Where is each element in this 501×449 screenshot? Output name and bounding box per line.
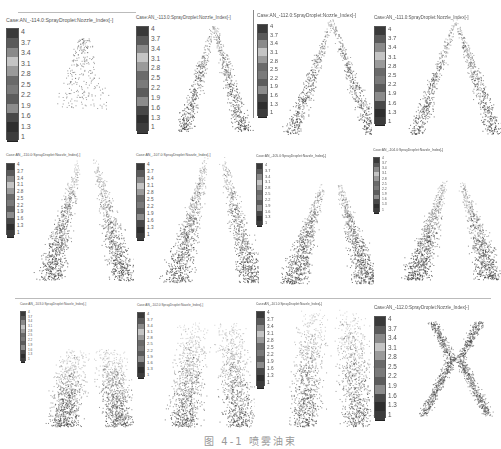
colorbar-tick-label: 3.1 bbox=[265, 180, 270, 184]
colorbar-tick-label: 3.1 bbox=[28, 325, 32, 328]
colorbar-tick-label: 1.9 bbox=[382, 193, 387, 196]
colorbar-tick-label: 2.5 bbox=[147, 198, 154, 203]
colorbar-tick-label: 2.5 bbox=[151, 75, 160, 82]
spray-droplet-scatter bbox=[40, 303, 134, 433]
colorbar-tick-label: 1.6 bbox=[28, 349, 32, 352]
colorbar-tick-label: 1.6 bbox=[267, 367, 274, 372]
colorbar-tick-label: 1.9 bbox=[267, 360, 274, 365]
colorbar-tick-label: 4 bbox=[388, 26, 391, 32]
spray-droplet-scatter bbox=[277, 152, 374, 292]
colorbar bbox=[137, 312, 145, 377]
colorbar-tick-label: 3.7 bbox=[388, 326, 397, 332]
colorbar-tick-label: 2.2 bbox=[17, 204, 23, 209]
colorbar-tick-label: 1 bbox=[151, 124, 155, 131]
colorbar-tick-label: 4 bbox=[17, 163, 20, 168]
colorbar-tick-label: 1.3 bbox=[270, 102, 278, 108]
colorbar-tick-label: 2.2 bbox=[147, 205, 154, 210]
colorbar-tick-label: 3.4 bbox=[267, 325, 274, 330]
colorbar bbox=[136, 26, 149, 131]
colorbar-tick-label: 1.9 bbox=[265, 204, 270, 208]
colorbar-tick-label: 4 bbox=[151, 26, 155, 33]
colorbar-tick-label: 1.3 bbox=[28, 353, 32, 356]
colorbar-tick-label: 2.5 bbox=[382, 183, 387, 186]
colorbar-tick-label: 3.1 bbox=[147, 330, 153, 334]
spray-droplet-scatter bbox=[279, 303, 374, 433]
colorbar-tick-label: 4 bbox=[147, 312, 149, 316]
colorbar bbox=[256, 163, 263, 225]
colorbar-tick-label: 2.5 bbox=[17, 197, 23, 202]
spray-droplet-scatter bbox=[33, 10, 124, 150]
colorbar-tick-label: 3.7 bbox=[388, 35, 397, 41]
colorbar-tick-label: 1 bbox=[265, 221, 267, 225]
spray-panel: Case:AN_-101.0:SprayDroplet:Nozzle_Index… bbox=[252, 303, 374, 433]
colorbar-tick-label: 1.9 bbox=[151, 95, 160, 102]
colorbar-tick-label: 3.7 bbox=[151, 36, 160, 43]
colorbar-tick-label: 2.5 bbox=[388, 72, 397, 78]
colorbar-tick-label: 1.3 bbox=[21, 123, 31, 130]
colorbar-tick-label: 3.4 bbox=[151, 46, 160, 53]
colorbar-tick-label: 3.1 bbox=[17, 183, 23, 188]
colorbar-tick-label: 1.9 bbox=[147, 212, 154, 217]
colorbar-tick-label: 2.8 bbox=[267, 339, 274, 344]
colorbar-tick-label: 1.6 bbox=[388, 393, 397, 399]
colorbar-tick-label: 3.1 bbox=[147, 184, 154, 189]
spray-panel: Case:AN_-104.0:SprayDroplet:Nozzle_Index… bbox=[370, 148, 501, 288]
colorbar-tick-label: 3.4 bbox=[270, 41, 278, 47]
colorbar-tick-label: 2.5 bbox=[21, 81, 31, 88]
colorbar-tick-label: 2.8 bbox=[147, 191, 154, 196]
spray-droplet-scatter bbox=[159, 303, 255, 433]
figure-caption: 图 4-1 喷雾油束 bbox=[0, 433, 501, 448]
colorbar-tick-label: 1 bbox=[147, 233, 150, 238]
colorbar-tick-label: 1 bbox=[388, 412, 392, 418]
colorbar-tick-label: 1.6 bbox=[17, 217, 23, 222]
colorbar-tick-label: 1.6 bbox=[151, 105, 160, 112]
colorbar-tick-label: 4 bbox=[382, 157, 384, 160]
colorbar bbox=[20, 311, 26, 361]
colorbar-tick-label: 2.5 bbox=[267, 346, 274, 351]
colorbar-tick-label: 1.9 bbox=[17, 210, 23, 215]
colorbar-tick-label: 1 bbox=[17, 231, 20, 236]
colorbar-tick-label: 2.2 bbox=[382, 188, 387, 191]
colorbar-tick-label: 1.9 bbox=[388, 383, 397, 389]
colorbar-tick-label: 3.4 bbox=[147, 177, 154, 182]
colorbar-tick-label: 2.2 bbox=[151, 85, 160, 92]
colorbar bbox=[6, 28, 19, 140]
colorbar-tick-label: 4 bbox=[28, 311, 30, 314]
colorbar-tick-label: 1.9 bbox=[270, 84, 278, 90]
spray-droplet-scatter bbox=[29, 155, 134, 290]
colorbar-tick-label: 2.5 bbox=[388, 364, 397, 370]
colorbar-tick-label: 3.4 bbox=[17, 177, 23, 182]
colorbar-tick-label: 3.7 bbox=[382, 162, 387, 165]
spray-droplet-scatter bbox=[400, 303, 501, 428]
spray-droplet-scatter bbox=[394, 148, 501, 288]
colorbar bbox=[256, 311, 265, 386]
colorbar bbox=[6, 163, 15, 235]
colorbar-tick-label: 1.6 bbox=[270, 93, 278, 99]
colorbar-tick-label: 1.9 bbox=[147, 355, 153, 359]
colorbar-tick-label: 4 bbox=[388, 316, 392, 322]
colorbar-tick-label: 1 bbox=[267, 381, 270, 386]
colorbar-tick-label: 2.2 bbox=[388, 81, 397, 87]
colorbar-tick-label: 3.4 bbox=[388, 335, 397, 341]
colorbar-tick-label: 2.8 bbox=[28, 330, 32, 333]
colorbar-tick-label: 3.1 bbox=[382, 172, 387, 175]
spray-droplet-scatter bbox=[159, 152, 259, 292]
spray-droplet-scatter bbox=[163, 14, 255, 144]
colorbar-tick-label: 1.3 bbox=[151, 115, 160, 122]
spray-droplet-scatter bbox=[282, 8, 372, 148]
colorbar-tick-label: 1.6 bbox=[388, 100, 397, 106]
colorbar-tick-label: 1.3 bbox=[388, 402, 397, 408]
colorbar-tick-label: 1 bbox=[388, 118, 391, 124]
colorbar-tick-label: 2.8 bbox=[17, 190, 23, 195]
colorbar-tick-label: 3.1 bbox=[21, 60, 31, 67]
colorbar-tick-label: 4 bbox=[21, 28, 25, 35]
spray-panel: Case:AN_-113.0:SprayDroplet:Nozzle_Index… bbox=[135, 14, 255, 144]
colorbar-tick-label: 3.4 bbox=[265, 175, 270, 179]
colorbar-tick-label: 4 bbox=[265, 163, 267, 167]
colorbar-tick-label: 3.7 bbox=[267, 318, 274, 323]
colorbar-tick-label: 3.4 bbox=[388, 44, 397, 50]
colorbar-tick-label: 1.3 bbox=[147, 226, 154, 231]
colorbar-tick-label: 2.2 bbox=[147, 349, 153, 353]
colorbar-tick-label: 2.5 bbox=[265, 192, 270, 196]
colorbar-tick-label: 3.4 bbox=[147, 324, 153, 328]
